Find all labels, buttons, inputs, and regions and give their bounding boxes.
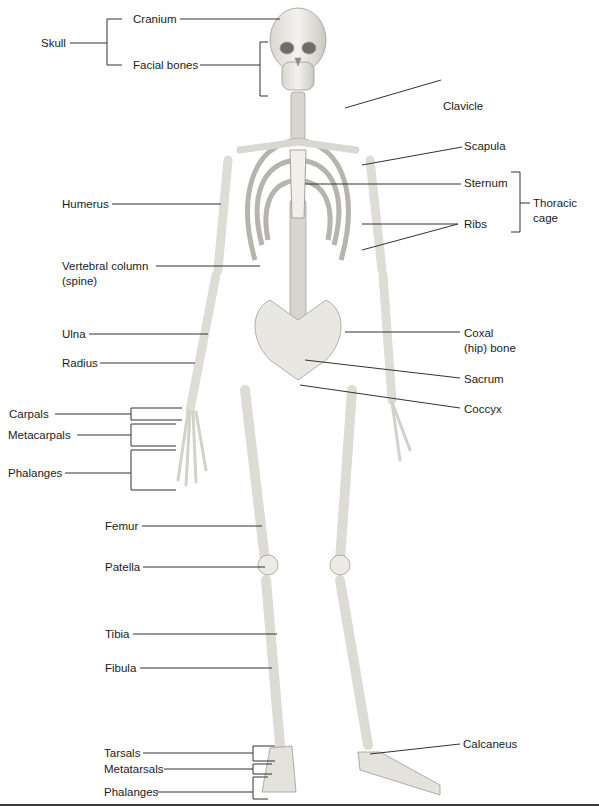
label-thoracic-cage: Thoracic bbox=[533, 196, 577, 210]
label-metacarpals: Metacarpals bbox=[8, 428, 71, 442]
label-coxal-sub: (hip) bone bbox=[464, 341, 516, 355]
label-humerus: Humerus bbox=[62, 197, 109, 211]
label-fibula: Fibula bbox=[105, 661, 136, 675]
label-cranium: Cranium bbox=[133, 12, 176, 26]
label-tibia: Tibia bbox=[105, 627, 130, 641]
label-carpals: Carpals bbox=[9, 407, 49, 421]
label-hand-phalanges: Phalanges bbox=[8, 466, 62, 480]
label-vertebral-column: Vertebral column bbox=[62, 259, 148, 273]
bottom-rule bbox=[0, 804, 599, 806]
label-scapula: Scapula bbox=[464, 139, 506, 153]
label-ulna: Ulna bbox=[62, 327, 86, 341]
label-femur: Femur bbox=[105, 519, 138, 533]
label-vertebral-column-sub: (spine) bbox=[62, 274, 97, 288]
label-coxal: Coxal bbox=[464, 326, 493, 340]
label-foot-phalanges: Phalanges bbox=[104, 785, 158, 799]
label-calcaneus: Calcaneus bbox=[463, 737, 517, 751]
label-patella: Patella bbox=[105, 560, 140, 574]
label-sacrum: Sacrum bbox=[464, 372, 504, 386]
label-thoracic-cage-sub: cage bbox=[533, 211, 558, 225]
label-facial-bones: Facial bones bbox=[133, 58, 198, 72]
label-skull: Skull bbox=[41, 36, 66, 50]
label-ribs: Ribs bbox=[464, 217, 487, 231]
label-metatarsals: Metatarsals bbox=[104, 762, 163, 776]
label-coccyx: Coccyx bbox=[464, 402, 502, 416]
leader-lines bbox=[0, 0, 599, 811]
label-clavicle: Clavicle bbox=[443, 99, 483, 113]
label-sternum: Sternum bbox=[464, 176, 507, 190]
label-tarsals: Tarsals bbox=[104, 746, 140, 760]
label-radius: Radius bbox=[62, 356, 98, 370]
